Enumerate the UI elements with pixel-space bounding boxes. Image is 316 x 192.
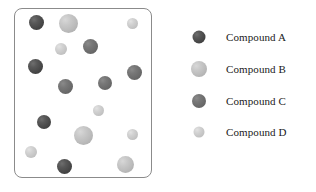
- particle-compound-b: [74, 126, 93, 145]
- particle-compound-a: [28, 59, 43, 74]
- particle-diagram-figure: Compound ACompound BCompound CCompound D: [0, 0, 316, 192]
- legend-item-compound-b: Compound B: [186, 58, 312, 80]
- particle-compound-a: [29, 15, 44, 30]
- particle-compound-c: [127, 65, 142, 80]
- legend-swatch-compound-c-icon: [192, 94, 206, 108]
- legend-label: Compound D: [212, 126, 287, 138]
- legend-swatch-compound-d-icon: [194, 127, 205, 138]
- particle-compound-b: [59, 14, 78, 33]
- particle-compound-c: [98, 76, 112, 90]
- particle-compound-a: [37, 115, 51, 129]
- compound-legend: Compound ACompound BCompound CCompound D: [186, 26, 312, 146]
- legend-label: Compound B: [212, 63, 286, 75]
- legend-swatch-cell: [186, 58, 212, 80]
- legend-swatch-cell: [186, 121, 212, 143]
- legend-swatch-compound-a-icon: [193, 31, 206, 44]
- mixture-container: [14, 8, 152, 178]
- legend-item-compound-d: Compound D: [186, 121, 312, 143]
- legend-swatch-compound-b-icon: [191, 61, 207, 77]
- particle-compound-d: [127, 18, 138, 29]
- legend-swatch-cell: [186, 26, 212, 48]
- legend-item-compound-a: Compound A: [186, 26, 312, 48]
- particle-compound-c: [58, 79, 73, 94]
- particle-compound-d: [93, 105, 104, 116]
- particle-compound-a: [57, 159, 72, 174]
- legend-label: Compound C: [212, 95, 286, 107]
- legend-swatch-cell: [186, 90, 212, 112]
- particle-compound-c: [83, 39, 98, 54]
- particle-compound-d: [55, 43, 67, 55]
- particle-compound-d: [25, 146, 37, 158]
- particle-compound-b: [117, 156, 134, 173]
- legend-item-compound-c: Compound C: [186, 90, 312, 112]
- particle-compound-d: [127, 129, 138, 140]
- legend-label: Compound A: [212, 31, 286, 43]
